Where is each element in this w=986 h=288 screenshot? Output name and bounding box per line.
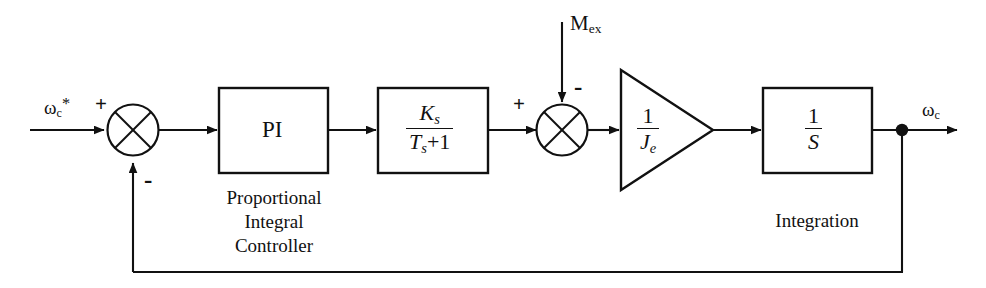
output-label: ωc bbox=[922, 100, 940, 121]
torque-junction-minus-sign: - bbox=[574, 82, 582, 92]
diagram-canvas bbox=[0, 0, 986, 288]
integration-caption: Integration bbox=[742, 211, 892, 230]
inertia-gain-label: 1 Je bbox=[637, 104, 659, 156]
error-junction-minus-sign: - bbox=[144, 175, 152, 185]
pi-caption-line-1: Proportional bbox=[184, 188, 364, 207]
pi-caption-line-2: Integral bbox=[184, 212, 364, 231]
block-diagram: ωc* + - PI Proportional Integral Control… bbox=[0, 0, 986, 288]
pi-caption-line-3: Controller bbox=[184, 236, 364, 255]
integrator-label: 1 S bbox=[805, 104, 822, 154]
error-junction-plus-sign: + bbox=[95, 94, 107, 115]
pi-controller-label: PI bbox=[262, 118, 282, 141]
torque-junction-plus-sign: + bbox=[513, 94, 525, 115]
inertia-gain-triangle bbox=[621, 70, 713, 190]
first-order-lag-label: Ks Ts+1 bbox=[406, 101, 453, 156]
reference-input-label: ωc* bbox=[44, 96, 70, 119]
disturbance-input-label: Mex bbox=[570, 13, 601, 35]
output-node-dot bbox=[896, 124, 908, 136]
